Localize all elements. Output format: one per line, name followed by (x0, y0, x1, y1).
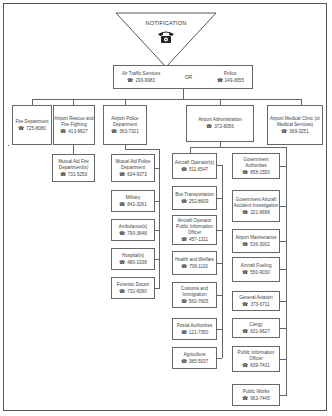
phone-icon: ☎ (217, 77, 223, 83)
public-information-officer-box: Public Information Officer ☎839-7431 (232, 346, 280, 372)
agriculture-box: Agriculture ☎385-5037 (172, 347, 217, 369)
airport-maintenance-box: Airport Maintenance ☎536-3002 (232, 229, 280, 253)
police: Police ☎149-3655 (217, 71, 244, 84)
phone-icon: ☎ (111, 128, 117, 134)
phone-icon: ☎ (181, 263, 187, 269)
notification-title: NOTIFICATION (133, 20, 199, 26)
phone-icon: ☎ (60, 128, 66, 134)
aircraft-operator-pio-box: Aircraft Operator Public Information Off… (172, 215, 217, 245)
fire-department-box: Fire Department ☎725-8080 (12, 105, 52, 145)
gov-aircraft-accident-investigation-box: Government Aircraft Accident Investigati… (232, 190, 280, 222)
phone-icon: ☎ (181, 329, 187, 335)
ambulances-box: Ambulance(s) ☎790-3648 (111, 219, 155, 241)
postal-authorities-box: Postal Authorities ☎121-7350 (172, 318, 217, 340)
airport-police-box: Airport Police Department ☎363-7321 (103, 105, 147, 145)
phone-icon: ☎ (242, 328, 248, 334)
phone-icon: ☎ (281, 128, 287, 134)
aircraft-fueling-box: Aircraft Fueling ☎550-9030 (232, 257, 280, 282)
military-box: Military ☎842-3261 (111, 190, 155, 212)
phone-icon: ☎ (181, 298, 187, 304)
phone-icon: ☎ (242, 241, 248, 247)
phone-icon: ☎ (119, 201, 125, 207)
bus-transportation-box: Bus Transportation ☎252-8609 (172, 186, 217, 210)
phone-icon: ☎ (119, 171, 125, 177)
mutual-aid-fire-box: Mutual Aid Fire Department(s) ☎731-5250 (52, 154, 95, 182)
phone-icon: ☎ (242, 209, 248, 215)
airport-rescue-box: Airport Rescue and Fire Fighting ☎413-96… (53, 105, 95, 145)
hospitals-box: Hospital(s) ☎480-1038 (111, 248, 155, 270)
government-authorities-box: Government Authorities ☎858-1550 (232, 153, 280, 179)
phone-icon: ☎ (181, 198, 187, 204)
phone-icon: ☎ (242, 269, 248, 275)
general-aviation-box: General Aviation ☎373-6711 (232, 291, 280, 311)
phone-icon: ☎ (119, 259, 125, 265)
aircraft-operators-box: Aircraft Operator(s) ☎511-6547 (172, 153, 217, 179)
phone-icon: ☎ (242, 301, 248, 307)
phone-icon: ☎ (242, 395, 248, 401)
phone-icon: ☎ (18, 125, 24, 131)
phone-icon: ☎ (181, 166, 187, 172)
phone-icon: ☎ (242, 169, 248, 175)
forensic-doctor-box: Forensic Doctor ☎732-6090 (111, 277, 155, 299)
phone-icon: ☎ (181, 358, 187, 364)
phone-icon: ☎ (127, 77, 133, 83)
phone-icon: ☎ (119, 288, 125, 294)
phone-icon: ☎ (242, 362, 248, 368)
clergy-box: Clergy ☎631-9627 (232, 318, 280, 338)
top-contact-box: Air Traffic Services ☎293-9983 OR Police… (113, 65, 253, 89)
phone-icon: ☎ (119, 230, 125, 236)
phone-icon: ☎ (181, 236, 187, 242)
health-welfare-box: Health and Welfare ☎709-1110 (172, 251, 217, 275)
airport-medical-clinic-box: Airport Medical Clinic (or Medical Servi… (267, 105, 323, 145)
telephone-icon (157, 30, 175, 44)
phone-icon: ☎ (60, 171, 66, 177)
airport-administration-box: Airport Administration ☎372-8056 (186, 105, 254, 142)
or-connector: OR (185, 74, 193, 80)
customs-immigration-box: Customs and Immigration ☎560-7605 (172, 282, 217, 308)
air-traffic-services: Air Traffic Services ☎293-9983 (122, 71, 160, 84)
public-works-box: Public Works ☎963-7445 (232, 384, 280, 406)
mutual-aid-police-box: Mutual Aid Police Department ☎634-9373 (111, 154, 155, 182)
phone-icon: ☎ (206, 123, 212, 129)
